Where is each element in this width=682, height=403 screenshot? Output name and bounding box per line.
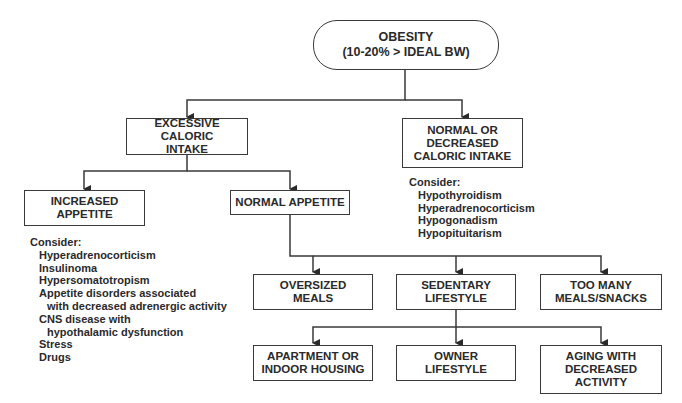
consider-item: hypothalamic dysfunction [30,326,227,339]
consider-item: Hypopituitarism [409,227,535,240]
consider-item: Hypogonadism [409,214,535,227]
consider-heading: Consider: [409,176,535,189]
obesity-root-node: OBESITY (10-20% > IDEAL BW) [313,20,499,70]
increased-appetite-node: INCREASED APPETITE [24,190,145,226]
sedentary-lifestyle-node: SEDENTARY LIFESTYLE [396,274,516,310]
consider-item: CNS disease with [30,313,227,326]
consider-item: with decreased adrenergic activity [30,300,227,313]
normal-decreased-caloric-intake-node: NORMAL OR DECREASED CALORIC INTAKE [402,118,523,168]
consider-item: Hypothyroidism [409,189,535,202]
apartment-indoor-housing-node: APARTMENT OR INDOOR HOUSING [253,345,373,381]
normal-appetite-node: NORMAL APPETITE [230,190,350,215]
consider-item: Appetite disorders associated [30,287,227,300]
consider-list-normal-intake: Consider: Hypothyroidism Hyperadrenocort… [409,176,535,240]
excessive-caloric-intake-node: EXCESSIVE CALORIC INTAKE [126,118,248,155]
owner-lifestyle-node: OWNER LIFESTYLE [396,345,516,381]
consider-list-increased-appetite: Consider: Hyperadrenocorticism Insulinom… [30,236,227,364]
consider-item: Insulinoma [30,262,227,275]
consider-item: Hyperadrenocorticism [409,202,535,215]
consider-item: Stress [30,338,227,351]
oversized-meals-node: OVERSIZED MEALS [253,274,373,310]
too-many-meals-node: TOO MANY MEALS/SNACKS [540,274,662,310]
aging-decreased-activity-node: AGING WITH DECREASED ACTIVITY [540,345,662,394]
consider-item: Drugs [30,351,227,364]
consider-item: Hyperadrenocorticism [30,249,227,262]
consider-heading: Consider: [30,236,227,249]
consider-item: Hypersomatotropism [30,274,227,287]
